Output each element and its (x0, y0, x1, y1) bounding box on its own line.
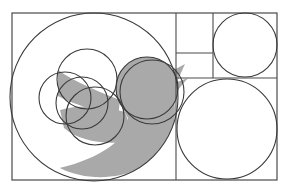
top-right-circle (213, 13, 277, 77)
bottom-right-circle (177, 79, 277, 179)
diagram-canvas: Twitter bird logo golden-ratio circle co… (0, 0, 288, 194)
golden-ratio-bird-diagram (0, 0, 288, 194)
